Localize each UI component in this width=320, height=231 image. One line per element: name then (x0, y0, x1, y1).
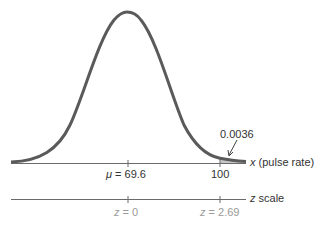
x-axis-label: x (pulse rate) (250, 156, 314, 168)
z-axis-label: z scale (250, 192, 284, 204)
z-tick-label-2-69: z = 2.69 (200, 206, 239, 218)
shaded-area-annotation: 0.0036 (220, 128, 254, 140)
z-symbol: z (114, 206, 120, 218)
mean-value: = 69.6 (115, 168, 146, 180)
z-axis-description: scale (259, 192, 285, 204)
annotation-arrow (229, 140, 237, 155)
z-tick-label-0: z = 0 (114, 206, 138, 218)
z-symbol: z (200, 206, 206, 218)
x-variable: x (250, 156, 256, 168)
z-zero-value: = 0 (123, 206, 139, 218)
z-variable: z (250, 192, 256, 204)
x-tick-label-100: 100 (211, 168, 229, 180)
mean-label: μ = 69.6 (106, 168, 146, 180)
z-value-2-69: = 2.69 (209, 206, 240, 218)
mu-symbol: μ (106, 168, 112, 180)
bell-curve (11, 12, 246, 162)
x-axis-description: (pulse rate) (259, 156, 315, 168)
